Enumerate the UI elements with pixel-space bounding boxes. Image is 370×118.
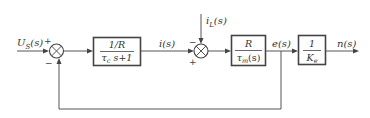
block-1: 1/R τc s+1 [94, 38, 141, 66]
arrow-icon [353, 49, 359, 54]
arrow-icon [225, 49, 231, 54]
sum1-minus-sign: − [45, 58, 53, 68]
block-2-numerator: R [244, 38, 252, 49]
arrow-icon [292, 49, 298, 54]
arrow-icon [57, 58, 62, 64]
block-1-numerator: 1/R [109, 39, 125, 50]
arrow-icon [43, 49, 49, 54]
current-label: i(s) [159, 38, 175, 49]
sum1-plus-sign: + [44, 36, 52, 46]
block-diagram: US(s) + − 1/R τc s+1 i(s) iL(s) − + [0, 0, 370, 118]
disturbance-signal: iL(s) [199, 14, 227, 44]
block-3: 1 Ke [299, 36, 326, 66]
sum2-minus-sign: − [189, 37, 197, 47]
block-3-numerator: 1 [309, 38, 315, 49]
block-2: R τm(s) [232, 36, 266, 66]
arrow-icon [188, 49, 194, 54]
sum2-plus-sign: + [189, 57, 197, 67]
input-label: US(s) [17, 37, 43, 51]
error-label: e(s) [272, 38, 291, 49]
arrow-icon [87, 49, 93, 54]
disturbance-label: iL(s) [206, 15, 227, 29]
output-label: n(s) [337, 38, 356, 49]
summing-junction-2: − + [189, 37, 208, 67]
arrow-icon [199, 38, 204, 44]
